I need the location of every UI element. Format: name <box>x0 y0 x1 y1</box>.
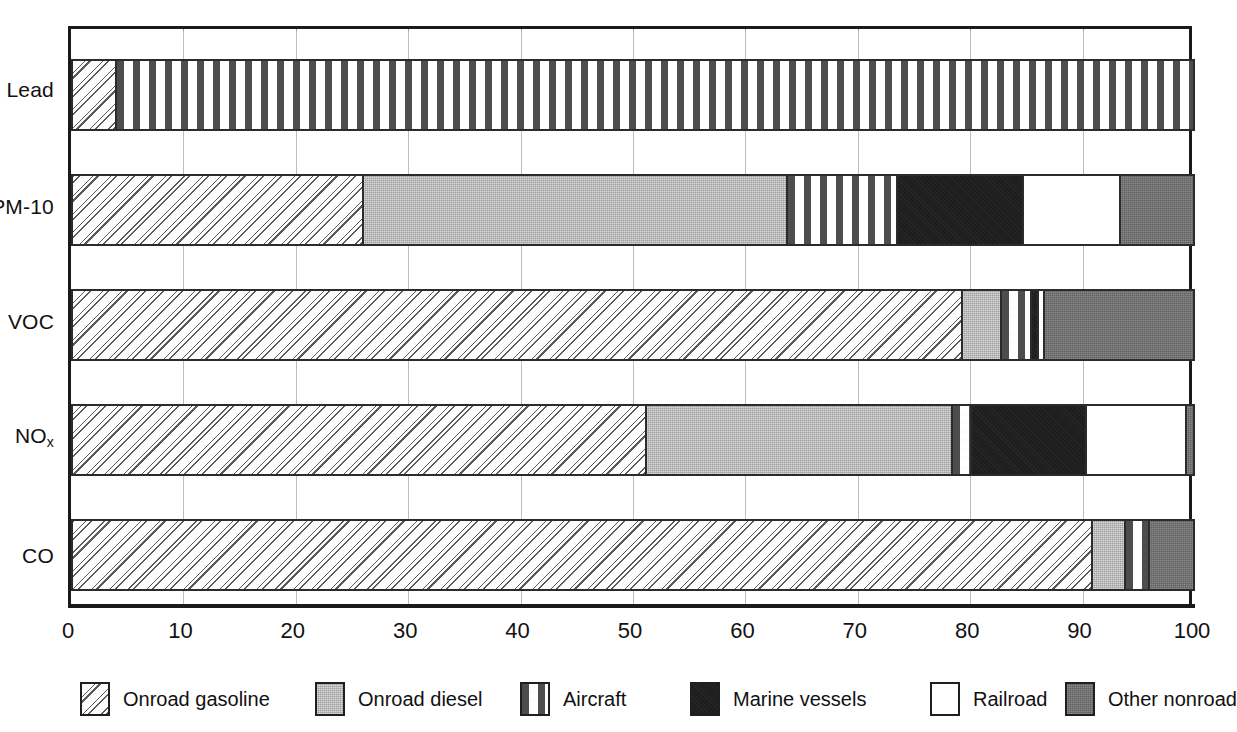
bar-track <box>71 519 1189 591</box>
category-label-co: CO <box>22 544 54 568</box>
segment-pm-10-marine-vessels <box>897 174 1023 246</box>
segment-voc-other-nonroad <box>1044 289 1195 361</box>
legend-item-aircraft[interactable]: Aircraft <box>520 676 626 722</box>
legend-item-onroad-gasoline[interactable]: Onroad gasoline <box>80 676 270 722</box>
segment-voc-marine-vessels <box>1031 289 1038 361</box>
category-label-lead: Lead <box>6 78 54 102</box>
segment-voc-aircraft <box>1001 289 1031 361</box>
bar-track <box>71 289 1189 361</box>
segment-nox-onroad-diesel <box>646 404 952 476</box>
x-tick-label-0: 0 <box>62 618 74 644</box>
segment-co-onroad-diesel <box>1092 519 1126 591</box>
legend-item-railroad[interactable]: Railroad <box>930 676 1047 722</box>
legend-swatch-railroad-icon <box>930 682 960 716</box>
legend-label: Marine vessels <box>733 688 866 711</box>
legend-item-onroad-diesel[interactable]: Onroad diesel <box>315 676 483 722</box>
legend-swatch-marine-vessels-icon <box>690 682 720 716</box>
bar-voc <box>71 289 1189 361</box>
segment-pm-10-other-nonroad <box>1120 174 1195 246</box>
segment-lead-onroad-gasoline <box>71 59 116 131</box>
bars-layer <box>71 29 1189 604</box>
bar-nox <box>71 404 1189 476</box>
bar-co <box>71 519 1189 591</box>
segment-voc-railroad <box>1038 289 1045 361</box>
segment-pm-10-onroad-diesel <box>363 174 787 246</box>
legend-label: Other nonroad <box>1108 688 1237 711</box>
legend-swatch-onroad-diesel-icon <box>315 682 345 716</box>
nox-base: NO <box>15 424 47 447</box>
x-tick-label-90: 90 <box>1067 618 1091 644</box>
bar-track <box>71 59 1189 131</box>
bar-pm-10 <box>71 174 1189 246</box>
legend-swatch-other-nonroad-icon <box>1065 682 1095 716</box>
segment-voc-onroad-diesel <box>962 289 1000 361</box>
x-tick-label-70: 70 <box>843 618 867 644</box>
nox-subscript: x <box>47 434 54 450</box>
x-axis-line <box>68 604 1195 608</box>
bar-track <box>71 174 1189 246</box>
segment-co-onroad-gasoline <box>71 519 1092 591</box>
x-tick-label-30: 30 <box>393 618 417 644</box>
x-tick-label-50: 50 <box>618 618 642 644</box>
segment-lead-aircraft <box>116 59 1195 131</box>
segment-nox-other-nonroad <box>1186 404 1195 476</box>
legend-label: Onroad gasoline <box>123 688 270 711</box>
segment-voc-onroad-gasoline <box>71 289 962 361</box>
segment-co-other-nonroad <box>1149 519 1195 591</box>
x-tick-label-100: 100 <box>1174 618 1211 644</box>
legend-label: Aircraft <box>563 688 626 711</box>
x-tick-label-80: 80 <box>955 618 979 644</box>
legend-label: Railroad <box>973 688 1047 711</box>
segment-nox-onroad-gasoline <box>71 404 646 476</box>
segment-co-aircraft <box>1125 519 1149 591</box>
x-tick-label-60: 60 <box>730 618 754 644</box>
category-label-pm10: PM-10 <box>0 195 54 219</box>
category-label-nox: NOx <box>15 424 54 448</box>
plot-area <box>68 26 1192 607</box>
segment-pm-10-railroad <box>1023 174 1120 246</box>
x-tick-label-40: 40 <box>505 618 529 644</box>
segment-nox-railroad <box>1086 404 1186 476</box>
x-tick-label-10: 10 <box>168 618 192 644</box>
legend-item-other-nonroad[interactable]: Other nonroad <box>1065 676 1237 722</box>
legend-label: Onroad diesel <box>358 688 483 711</box>
legend-swatch-aircraft-icon <box>520 682 550 716</box>
bar-track <box>71 404 1189 476</box>
segment-nox-marine-vessels <box>971 404 1086 476</box>
chart-legend: Onroad gasolineOnroad dieselAircraftMari… <box>0 676 1228 722</box>
x-tick-label-20: 20 <box>281 618 305 644</box>
legend-swatch-onroad-gasoline-icon <box>80 682 110 716</box>
category-label-voc: VOC <box>8 310 54 334</box>
segment-pm-10-onroad-gasoline <box>71 174 363 246</box>
segment-nox-aircraft <box>952 404 971 476</box>
segment-pm-10-aircraft <box>787 174 897 246</box>
bar-lead <box>71 59 1189 131</box>
legend-item-marine-vessels[interactable]: Marine vessels <box>690 676 866 722</box>
